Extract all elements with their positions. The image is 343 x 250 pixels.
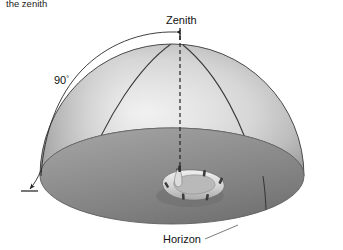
- zenith-label-group: Zenith: [166, 14, 197, 26]
- degree-symbol: °: [66, 75, 69, 82]
- figure-container: the zenith: [0, 0, 343, 250]
- raft-mast-top: [178, 166, 181, 173]
- horizon-label: Horizon: [163, 233, 201, 245]
- top-caption: the zenith: [6, 0, 47, 9]
- zenith-label: Zenith: [166, 14, 197, 26]
- top-caption-text: the zenith: [6, 0, 47, 9]
- celestial-hemisphere-diagram: the zenith: [0, 0, 343, 250]
- raft-strap-e: [182, 193, 185, 199]
- horizon-label-group: Horizon: [163, 225, 238, 245]
- angle-label: 90°: [54, 74, 69, 86]
- angle-label-value: 90: [54, 74, 66, 86]
- angle-arc-lower: [30, 170, 41, 189]
- horizon-leader-line: [205, 225, 238, 239]
